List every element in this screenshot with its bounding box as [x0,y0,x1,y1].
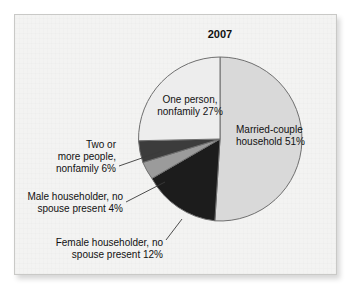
chart-title: 2007 [208,28,232,40]
pie-label-two-or-more-people-line3: nonfamily 6% [56,163,116,174]
pie-label-one-person-nonfamily: One person, nonfamily 27% [157,94,223,117]
pie-label-two-or-more-people-line2: more people, [58,151,116,162]
pie-label-one-person-nonfamily-line1: One person, [162,94,217,105]
pie-label-male-householder-line1: Male householder, no [27,191,123,202]
pie-label-married-couple-household-line2: household 51% [236,136,305,147]
pie-label-married-couple-household-line1: Married-couple [236,124,303,135]
pie-label-male-householder-line2: spouse present 4% [37,203,123,214]
pie-label-two-or-more-people-nonfamily: Two or more people, nonfamily 6% [56,139,117,174]
pie-label-one-person-nonfamily-line2: nonfamily 27% [157,106,223,117]
pie-label-female-householder: Female householder, no spouse present 12… [56,237,164,260]
pie-chart: 2007 Married-couple household 51% One pe… [0,0,364,296]
pie-label-married-couple-household: Married-couple household 51% [236,124,305,147]
figure-root: 2007 Married-couple household 51% One pe… [0,0,364,296]
pie-label-female-householder-line1: Female householder, no [56,237,164,248]
pie-label-male-householder: Male householder, no spouse present 4% [27,191,123,214]
leader-line-female-householder [166,219,182,240]
pie-label-two-or-more-people-line1: Two or [86,139,117,150]
leader-line-male-householder [126,182,165,202]
pie-label-female-householder-line2: spouse present 12% [72,249,163,260]
